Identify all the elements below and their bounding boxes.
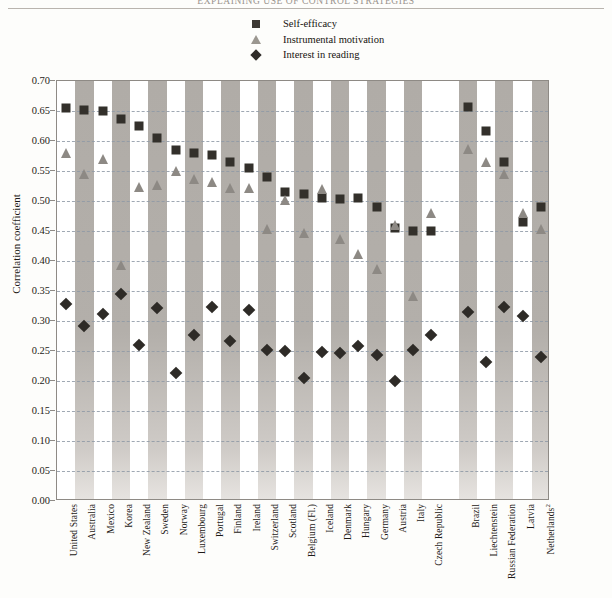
y-tick-mark (50, 290, 55, 291)
square-data-point (116, 114, 125, 123)
legend-label: Interest in reading (283, 47, 359, 63)
triangle-data-point (134, 182, 144, 192)
y-tick-label: 0.25 (4, 345, 50, 356)
square-data-point (208, 150, 217, 159)
x-tick-label: Denmark (343, 504, 353, 540)
triangle-data-point (262, 224, 272, 234)
square-data-point (171, 146, 180, 155)
diamond-data-point (425, 328, 438, 341)
square-data-point (427, 227, 436, 236)
column-band (221, 81, 239, 499)
gridline (57, 201, 548, 202)
legend-item-self-efficacy: Self-efficacy (243, 16, 384, 32)
gridline (57, 171, 548, 172)
square-data-point (482, 126, 491, 135)
square-data-point (80, 105, 89, 114)
triangle-data-point (244, 183, 254, 193)
y-tick-label: 0.45 (4, 225, 50, 236)
triangle-data-point (390, 220, 400, 230)
y-tick-label: 0.60 (4, 135, 50, 146)
square-data-point (500, 158, 509, 167)
triangle-data-point (372, 264, 382, 274)
triangle-marker-icon (243, 35, 269, 44)
y-tick-label: 0.70 (4, 75, 50, 86)
square-data-point (536, 203, 545, 212)
column-band (331, 81, 349, 499)
y-tick-mark (50, 110, 55, 111)
header-rule (8, 8, 604, 9)
gridline (57, 351, 548, 352)
y-tick-mark (50, 200, 55, 201)
y-tick-mark (50, 500, 55, 501)
triangle-data-point (79, 169, 89, 179)
chart-legend: Self-efficacy Instrumental motivation In… (243, 16, 384, 63)
triangle-data-point (299, 228, 309, 238)
diamond-data-point (388, 375, 401, 388)
square-data-point (153, 134, 162, 143)
gridline (57, 441, 548, 442)
diamond-data-point (133, 339, 146, 352)
x-tick-label: Germany (380, 504, 390, 540)
square-data-point (244, 164, 253, 173)
y-tick-label: 0.35 (4, 285, 50, 296)
x-tick-label: Iceland (325, 504, 335, 533)
y-tick-mark (50, 140, 55, 141)
x-tick-label: Switzerland (270, 504, 280, 550)
column-band (367, 81, 385, 499)
triangle-data-point (408, 291, 418, 301)
x-tick-label: Ireland (252, 504, 262, 532)
y-tick-mark (50, 440, 55, 441)
x-tick-label: Czech Republic (434, 504, 444, 566)
y-tick-label: 0.20 (4, 375, 50, 386)
column-band (258, 81, 276, 499)
y-tick-label: 0.65 (4, 105, 50, 116)
triangle-data-point (61, 148, 71, 158)
triangle-data-point (317, 184, 327, 194)
square-data-point (336, 195, 345, 204)
square-data-point (518, 218, 527, 227)
diamond-data-point (242, 304, 255, 317)
gridline (57, 141, 548, 142)
gridline (57, 111, 548, 112)
running-header: EXPLAINING USE OF CONTROL STRATEGIES (0, 0, 612, 6)
x-tick-label: New Zealand (142, 504, 152, 556)
diamond-data-point (96, 307, 109, 320)
x-tick-label: Russian Federation (507, 504, 517, 579)
y-tick-mark (50, 80, 55, 81)
triangle-data-point (116, 260, 126, 270)
gridline (57, 471, 548, 472)
column-band (404, 81, 422, 499)
square-data-point (226, 158, 235, 167)
x-tick-label: Portugal (215, 504, 225, 537)
triangle-data-point (335, 234, 345, 244)
x-tick-label: Luxembourg (197, 504, 207, 554)
x-tick-label: Mexico (106, 504, 116, 534)
triangle-data-point (426, 208, 436, 218)
x-tick-label: Netherlands2 (544, 504, 556, 555)
square-data-point (463, 102, 472, 111)
square-data-point (317, 194, 326, 203)
x-tick-label: Scotland (288, 504, 298, 538)
square-data-point (189, 149, 198, 158)
triangle-data-point (225, 183, 235, 193)
triangle-data-point (353, 249, 363, 259)
diamond-data-point (206, 301, 219, 314)
x-tick-label: Italy (416, 504, 426, 522)
x-tick-label: United States (69, 504, 79, 556)
x-tick-label: Belgium (Fl.) (307, 504, 317, 557)
y-tick-label: 0.05 (4, 465, 50, 476)
triangle-data-point (499, 169, 509, 179)
triangle-data-point (98, 154, 108, 164)
column-band (532, 81, 549, 499)
y-tick-mark (50, 320, 55, 321)
y-tick-label: 0.10 (4, 435, 50, 446)
triangle-data-point (189, 174, 199, 184)
x-tick-label: Australia (87, 504, 97, 540)
column-band (495, 81, 513, 499)
square-data-point (135, 122, 144, 131)
y-tick-mark (50, 350, 55, 351)
gridline (57, 411, 548, 412)
diamond-data-point (169, 367, 182, 380)
triangle-data-point (152, 180, 162, 190)
x-tick-label: Liechtenstein (489, 504, 499, 556)
